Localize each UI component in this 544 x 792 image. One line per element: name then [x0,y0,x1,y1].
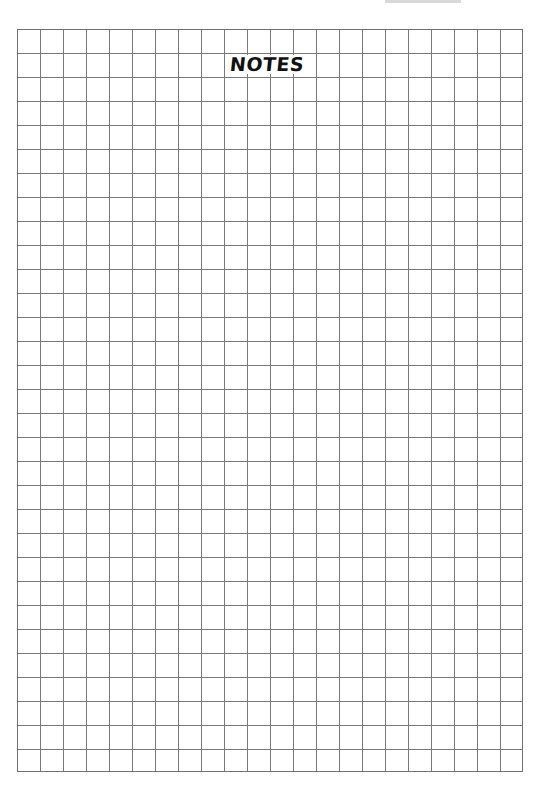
page-title: NOTES [227,55,307,74]
graph-paper-grid [17,29,523,772]
clipped-page-header [385,0,461,3]
